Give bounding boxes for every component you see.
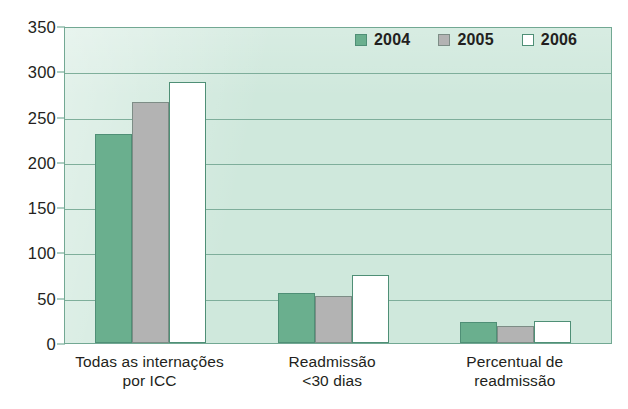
y-axis-tick-label: 0 xyxy=(47,335,56,354)
x-axis-label-line: <30 dias xyxy=(237,371,427,390)
bar-chart-figure: 050100150200250300350 200420052006 Todas… xyxy=(0,0,628,409)
y-axis-tick-label: 100 xyxy=(28,244,56,263)
x-axis: Todas as internaçõespor ICCReadmissão<30… xyxy=(64,352,612,409)
x-axis-category-label: Todas as internaçõespor ICC xyxy=(55,352,245,390)
bar-2006-group-3 xyxy=(534,321,571,343)
gray-swatch-icon xyxy=(438,34,450,46)
y-axis-tick-label: 50 xyxy=(37,289,56,308)
x-axis-category-label: Percentual dereadmissão xyxy=(420,352,610,390)
green-swatch-icon xyxy=(355,34,367,46)
y-axis-tick-label: 200 xyxy=(28,153,56,172)
legend-entry-2005: 2005 xyxy=(438,31,493,49)
legend-entry-2006: 2006 xyxy=(522,31,577,49)
bar-2004-group-3 xyxy=(460,322,497,343)
plot-area xyxy=(64,27,612,344)
bar-2006-group-1 xyxy=(169,82,206,343)
x-axis-label-line: readmissão xyxy=(420,371,610,390)
legend: 200420052006 xyxy=(355,31,577,49)
legend-label: 2006 xyxy=(541,31,577,49)
legend-label: 2004 xyxy=(374,31,410,49)
x-axis-label-line: por ICC xyxy=(55,371,245,390)
y-axis-tick-label: 300 xyxy=(28,63,56,82)
y-axis-tick-label: 150 xyxy=(28,199,56,218)
bars-layer xyxy=(65,28,611,343)
bar-2006-group-2 xyxy=(352,275,389,343)
white-swatch-icon xyxy=(522,34,534,46)
x-axis-label-line: Todas as internações xyxy=(55,352,245,371)
bar-2004-group-2 xyxy=(278,293,315,343)
legend-label: 2005 xyxy=(457,31,493,49)
y-axis: 050100150200250300350 xyxy=(0,0,56,409)
bar-2004-group-1 xyxy=(95,134,132,343)
x-axis-category-label: Readmissão<30 dias xyxy=(237,352,427,390)
bar-2005-group-1 xyxy=(132,102,169,343)
y-axis-tick-label: 250 xyxy=(28,108,56,127)
y-axis-tick-label: 350 xyxy=(28,18,56,37)
legend-entry-2004: 2004 xyxy=(355,31,410,49)
bar-2005-group-3 xyxy=(497,326,534,343)
x-axis-label-line: Percentual de xyxy=(420,352,610,371)
bar-2005-group-2 xyxy=(315,296,352,343)
x-axis-label-line: Readmissão xyxy=(237,352,427,371)
